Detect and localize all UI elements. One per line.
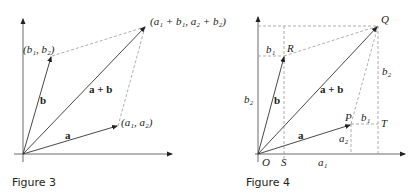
label-b1-top: b₁ bbox=[266, 43, 276, 55]
label-S: S bbox=[281, 156, 287, 168]
label-a-point: (a₁, a₂) bbox=[121, 116, 153, 129]
label-Q: Q bbox=[381, 13, 389, 25]
label-b2-left: b₂ bbox=[244, 93, 254, 105]
figure-3: (b₁, b₂) (a₁ + b₁, a₂ + b₂) (a₁, a₂) b a… bbox=[12, 15, 226, 189]
label-b-point: (b₁, b₂) bbox=[23, 43, 55, 56]
label-b1-right: b₁ bbox=[361, 111, 371, 123]
figure-4-caption: Figure 4 bbox=[246, 176, 290, 189]
label-O: O bbox=[262, 156, 270, 168]
label-sum-point: (a₁ + b₁, a₂ + b₂) bbox=[150, 15, 226, 28]
label-P: P bbox=[344, 111, 352, 123]
dashed-edge-a-to-sum bbox=[118, 27, 145, 126]
label-a2: a₂ bbox=[339, 132, 349, 144]
figure-3-caption: Figure 3 bbox=[12, 176, 56, 189]
label-a1: a₁ bbox=[318, 156, 328, 168]
label-vector-a: a bbox=[298, 129, 304, 141]
label-vector-a: a bbox=[65, 129, 71, 141]
label-vector-b: b bbox=[40, 94, 46, 106]
label-T: T bbox=[381, 117, 388, 129]
label-vector-sum: a + b bbox=[320, 83, 343, 95]
label-b2-right: b₂ bbox=[382, 65, 392, 77]
vector-addition-diagrams: (b₁, b₂) (a₁ + b₁, a₂ + b₂) (a₁, a₂) b a… bbox=[0, 0, 415, 196]
figure-4: Q R P T O S b₁ b₂ b₂ b₁ a₂ a₁ b a a + b … bbox=[244, 13, 405, 189]
label-vector-sum: a + b bbox=[89, 83, 112, 95]
label-R: R bbox=[286, 42, 294, 54]
label-vector-b: b bbox=[274, 94, 280, 106]
